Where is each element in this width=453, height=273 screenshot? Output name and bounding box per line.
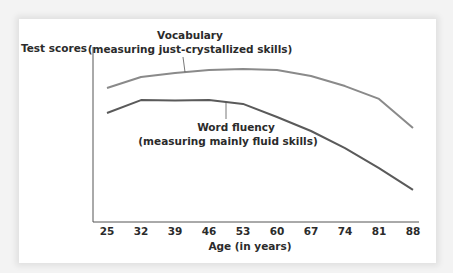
x-tick-label: 39 (168, 225, 183, 237)
vocabulary-annotation-subtitle: (measuring just-crystallized skills) (88, 43, 293, 55)
word-fluency-annotation-title: Word fluency (197, 121, 275, 133)
x-tick-label: 81 (372, 225, 387, 237)
vocabulary-annotation-title: Vocabulary (157, 29, 223, 41)
x-tick-label: 88 (406, 225, 421, 237)
x-tick-labels: 25323946536067748188 (100, 225, 421, 237)
y-axis-label: Test scores (21, 42, 87, 54)
word-fluency-annotation-subtitle: (measuring mainly fluid skills) (138, 135, 317, 147)
annotations: Vocabulary (measuring just-crystallized … (88, 29, 318, 147)
x-tick-label: 67 (304, 225, 319, 237)
x-tick-label: 60 (270, 225, 285, 237)
series-line-vocabulary (107, 69, 413, 128)
x-tick-label: 53 (236, 225, 251, 237)
line-chart: Test scores Age (in years) 2532394653606… (0, 0, 453, 273)
x-axis-label: Age (in years) (208, 240, 291, 252)
vocabulary-leader-line (183, 57, 185, 72)
x-tick-label: 32 (134, 225, 149, 237)
x-tick-label: 46 (202, 225, 217, 237)
x-tick-label: 74 (338, 225, 353, 237)
x-tick-label: 25 (100, 225, 115, 237)
